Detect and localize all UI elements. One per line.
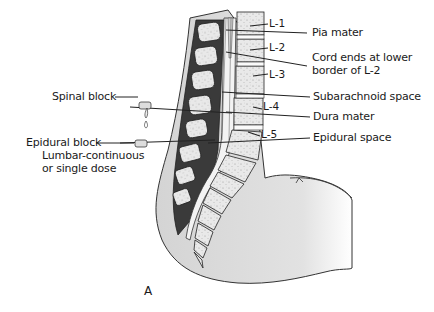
vertebra-l4 bbox=[234, 98, 263, 125]
label-l1: L-1 bbox=[269, 18, 285, 29]
label-spinal-block: Spinal block bbox=[52, 91, 116, 103]
label-dura-mater: Dura mater bbox=[313, 111, 374, 123]
label-epidural-block-sub1: Lumbar-continuous bbox=[42, 150, 144, 162]
vertebra-l3 bbox=[236, 66, 264, 94]
label-epidural-block-sub2: or single dose bbox=[42, 163, 116, 175]
panel-letter: A bbox=[144, 284, 152, 298]
label-l3: L-3 bbox=[269, 69, 285, 80]
label-subarachnoid-space: Subarachnoid space bbox=[313, 91, 421, 103]
label-epidural-block: Epidural block bbox=[26, 137, 101, 149]
label-pia-mater: Pia mater bbox=[312, 27, 363, 39]
label-l2: L-2 bbox=[269, 42, 285, 53]
label-l5: L-5 bbox=[261, 129, 277, 140]
label-l4: L-4 bbox=[263, 101, 279, 112]
label-cord-ends-line2: border of L-2 bbox=[312, 65, 380, 77]
label-cord-ends-line1: Cord ends at lower bbox=[312, 52, 412, 64]
label-epidural-space: Epidural space bbox=[313, 132, 391, 144]
